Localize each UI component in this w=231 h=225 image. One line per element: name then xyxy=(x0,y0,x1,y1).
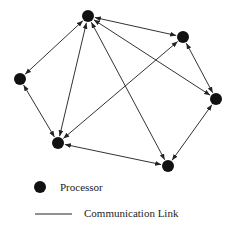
processor-node-E xyxy=(52,137,64,149)
link-B-E xyxy=(63,42,177,139)
processor-node-D xyxy=(210,93,222,105)
link-B-D xyxy=(186,43,212,93)
link-A-E xyxy=(60,23,87,136)
processor-node-F xyxy=(162,160,174,172)
legend: Processor Communication Link xyxy=(34,181,179,219)
processor-node-C xyxy=(14,73,26,85)
link-A-B xyxy=(95,18,176,36)
link-C-E xyxy=(24,85,55,137)
link-E-F xyxy=(65,144,161,164)
legend-processor-label: Processor xyxy=(60,181,103,193)
link-A-D xyxy=(94,20,210,95)
link-F-D xyxy=(172,105,212,161)
legend-processor-icon xyxy=(34,181,46,193)
processor-node-A xyxy=(82,10,94,22)
processors xyxy=(14,10,222,172)
legend-link-label: Communication Link xyxy=(84,207,179,219)
network-diagram: Processor Communication Link xyxy=(0,0,231,225)
processor-node-B xyxy=(177,31,189,43)
link-A-C xyxy=(25,21,83,74)
link-A-F xyxy=(91,22,164,160)
